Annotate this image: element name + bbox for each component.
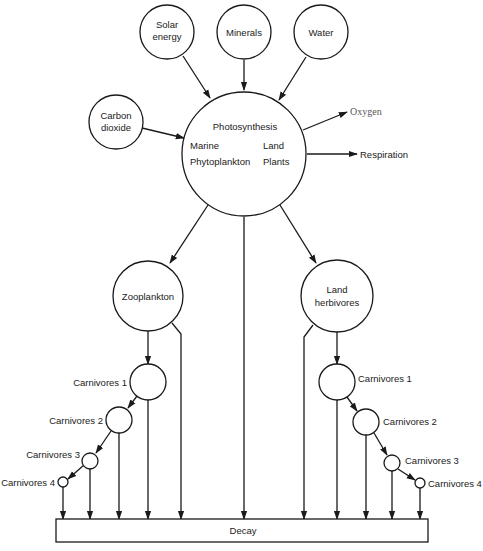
- carbon-dioxide-label-line2: dioxide: [101, 122, 131, 133]
- land-carnivores-3-label: Carnivores 3: [405, 455, 459, 466]
- node-photosynthesis: Photosynthesis Marine Phytoplankton Land…: [182, 92, 306, 216]
- arrow-to-land-herbivores: [280, 205, 316, 263]
- arrow-l-c2-to-c3: [374, 433, 387, 455]
- marine-carnivores-3-label: Carnivores 3: [26, 449, 80, 460]
- land-label: Land: [263, 140, 284, 151]
- solar-energy-label-line1: Solar: [156, 19, 178, 30]
- node-solar-energy: Solar energy: [140, 5, 194, 59]
- phytoplankton-label: Phytoplankton: [190, 156, 250, 167]
- node-water: Water: [294, 5, 348, 59]
- node-land-carnivores-1: Carnivores 1: [319, 364, 412, 400]
- zooplankton-label: Zooplankton: [122, 291, 174, 302]
- water-label: Water: [309, 27, 334, 38]
- node-land-carnivores-4: Carnivores 4: [415, 478, 482, 489]
- arrow-to-zooplankton: [170, 205, 208, 263]
- marine-carnivores-2-label: Carnivores 2: [49, 415, 103, 426]
- land-carnivores-1-label: Carnivores 1: [358, 373, 412, 384]
- decay-label: Decay: [230, 525, 257, 536]
- arrow-m-c2-to-c3: [96, 431, 111, 453]
- arrow-l-c1-to-c2: [347, 397, 357, 411]
- land-herbivores-label-line1: Land: [326, 284, 347, 295]
- arrow-water-to-photosynthesis: [279, 57, 306, 100]
- marine-label: Marine: [190, 140, 219, 151]
- arrow-herbivores-to-decay: [304, 325, 313, 519]
- arrow-m-c1-to-c2: [128, 396, 137, 408]
- node-land-carnivores-3: Carnivores 3: [384, 455, 459, 471]
- plants-label: Plants: [263, 156, 290, 167]
- node-minerals: Minerals: [217, 5, 271, 59]
- arrow-zooplankton-to-decay: [172, 323, 181, 519]
- minerals-label: Minerals: [226, 27, 262, 38]
- marine-carnivores-1-label: Carnivores 1: [73, 377, 127, 388]
- respiration-label: Respiration: [360, 149, 408, 160]
- node-marine-carnivores-3: Carnivores 3: [26, 449, 98, 469]
- node-marine-carnivores-2: Carnivores 2: [49, 407, 132, 433]
- node-zooplankton: Zooplankton: [113, 261, 183, 331]
- node-marine-carnivores-4: Carnivores 4: [1, 477, 68, 488]
- arrow-solar-to-photosynthesis: [183, 56, 210, 98]
- node-land-carnivores-2: Carnivores 2: [353, 409, 437, 435]
- arrow-co2-to-photosynthesis: [142, 128, 184, 138]
- land-carnivores-4-label: Carnivores 4: [428, 478, 482, 489]
- oxygen-label: Oxygen: [350, 106, 382, 117]
- node-decay: Decay: [56, 519, 428, 542]
- arrow-l-c3-to-c4: [398, 469, 415, 480]
- arrow-m-c3-to-c4: [68, 465, 84, 479]
- photosynthesis-title: Photosynthesis: [213, 121, 278, 132]
- node-marine-carnivores-1: Carnivores 1: [73, 364, 166, 400]
- arrow-to-oxygen: [303, 112, 347, 130]
- marine-carnivores-4-label: Carnivores 4: [1, 477, 55, 488]
- node-land-herbivores: Land herbivores: [301, 260, 373, 332]
- solar-energy-label-line2: energy: [152, 31, 181, 42]
- food-web-diagram: Solar energy Minerals Water Carbon dioxi…: [0, 0, 483, 551]
- node-carbon-dioxide: Carbon dioxide: [89, 95, 143, 149]
- land-carnivores-2-label: Carnivores 2: [383, 416, 437, 427]
- carbon-dioxide-label-line1: Carbon: [100, 110, 131, 121]
- land-herbivores-label-line2: herbivores: [315, 297, 360, 308]
